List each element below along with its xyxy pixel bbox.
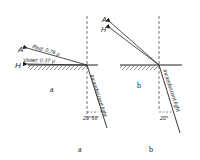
red-wavelength-label: Red: 0.76 μ (32, 43, 61, 57)
ray-h (110, 28, 159, 65)
ray-h-label: H (15, 61, 21, 70)
ray-a (110, 22, 159, 65)
inner-caption-b: b (137, 81, 141, 90)
angle-label: 20° (159, 115, 169, 121)
inner-caption-a: a (50, 85, 54, 94)
diffraction-diagram: A H Red: 0.76 μ Violet: 0.37 μ Incandesc… (0, 0, 200, 160)
surface-hatching (28, 65, 86, 70)
caption-a: a (78, 145, 82, 154)
ray-h-label: H (101, 26, 107, 33)
ray-a-label: A (101, 16, 107, 23)
panel-a: A H Red: 0.76 μ Violet: 0.37 μ Incandesc… (15, 16, 109, 128)
incident-light-label: Incandescent light (89, 73, 109, 117)
surface-hatching (120, 65, 158, 70)
panel-b: A H Incandescent light 20° b (101, 16, 182, 133)
angle-label: 23°58' (82, 115, 99, 121)
violet-wavelength-label: Violet: 0.37 μ (23, 57, 55, 64)
caption-b: b (149, 145, 153, 154)
ray-a-label: A (17, 45, 23, 54)
